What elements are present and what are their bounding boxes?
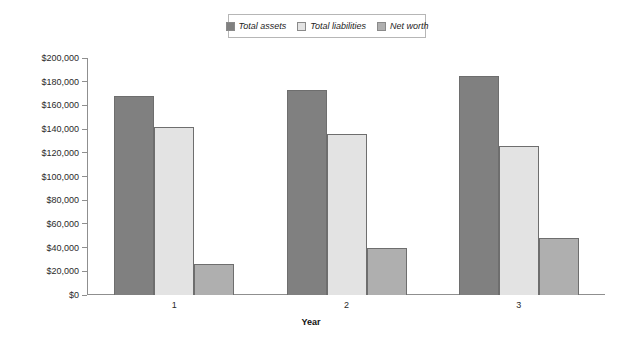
y-axis-tick-mark: [82, 223, 87, 224]
y-axis-tick-label: $0: [69, 288, 82, 302]
y-axis-tick-mark: [82, 129, 87, 130]
bar[interactable]: [327, 134, 367, 295]
y-axis-tick: $20,000: [46, 264, 87, 278]
bar[interactable]: [367, 248, 407, 295]
y-axis-tick-mark: [82, 152, 87, 153]
legend-entry[interactable]: Total liabilities: [297, 22, 366, 31]
y-axis-tick-label: $100,000: [41, 170, 82, 184]
y-axis-tick: $100,000: [41, 170, 87, 184]
y-axis-tick-mark: [82, 200, 87, 201]
legend-entry[interactable]: Net worth: [377, 22, 429, 31]
y-axis-tick-label: $200,000: [41, 51, 82, 65]
x-axis-tick-label: 2: [344, 300, 349, 310]
chart-legend: Total assetsTotal liabilitiesNet worth: [228, 14, 426, 38]
y-axis-tick: $120,000: [41, 146, 87, 160]
y-axis-tick: $60,000: [46, 217, 87, 231]
bar-group: [287, 58, 407, 295]
x-axis-tick-label: 3: [516, 300, 521, 310]
y-axis-tick-mark: [82, 247, 87, 248]
y-axis-tick-label: $120,000: [41, 146, 82, 160]
y-axis-tick: $140,000: [41, 122, 87, 136]
y-axis-tick: $40,000: [46, 241, 87, 255]
legend-label: Total assets: [239, 22, 287, 31]
y-axis-tick-mark: [82, 105, 87, 106]
y-axis-tick: $200,000: [41, 51, 87, 65]
y-axis-tick-label: $60,000: [46, 217, 82, 231]
legend-label: Net worth: [390, 22, 429, 31]
legend-swatch-icon: [297, 22, 306, 31]
bar-group: [459, 58, 579, 295]
y-axis-tick-mark: [82, 81, 87, 82]
bar[interactable]: [287, 90, 327, 295]
x-axis-title: Year: [0, 317, 622, 327]
bar[interactable]: [154, 127, 194, 295]
x-axis: 123: [88, 296, 605, 316]
bar[interactable]: [459, 76, 499, 295]
bar[interactable]: [539, 238, 579, 295]
y-axis-tick-mark: [82, 295, 87, 296]
bar-group: [114, 58, 234, 295]
bar[interactable]: [114, 96, 154, 295]
y-axis-tick: $180,000: [41, 75, 87, 89]
y-axis-tick-label: $40,000: [46, 241, 82, 255]
y-axis-tick: $0: [69, 288, 87, 302]
legend-label: Total liabilities: [310, 22, 366, 31]
legend-entry[interactable]: Total assets: [226, 22, 287, 31]
y-axis-tick-mark: [82, 58, 87, 59]
y-axis-tick-mark: [82, 176, 87, 177]
legend-swatch-icon: [377, 22, 386, 31]
y-axis-tick: $160,000: [41, 98, 87, 112]
y-axis-tick-label: $80,000: [46, 193, 82, 207]
y-axis-tick-label: $140,000: [41, 122, 82, 136]
y-axis-tick: $80,000: [46, 193, 87, 207]
y-axis-tick-mark: [82, 271, 87, 272]
y-axis: $200,000$180,000$160,000$140,000$120,000…: [0, 51, 87, 302]
bar[interactable]: [499, 146, 539, 295]
bar[interactable]: [194, 264, 234, 295]
y-axis-tick-label: $160,000: [41, 98, 82, 112]
bars-layer: [88, 58, 605, 295]
y-axis-tick-label: $20,000: [46, 264, 82, 278]
bar-chart: Total assetsTotal liabilitiesNet worth $…: [0, 0, 622, 344]
x-axis-tick-label: 1: [172, 300, 177, 310]
legend-swatch-icon: [226, 22, 235, 31]
y-axis-tick-label: $180,000: [41, 75, 82, 89]
